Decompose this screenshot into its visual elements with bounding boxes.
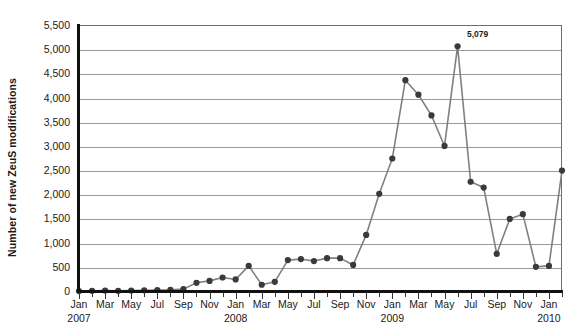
data-point [494,251,500,257]
data-point [233,276,239,282]
y-tick-label: 2,000 [44,188,70,200]
y-tick-label: 500 [52,261,70,273]
data-point [402,77,408,83]
y-tick-label: 1,000 [44,237,70,249]
x-tick-label-year: 2010 [537,312,560,324]
x-tick-label-month: Jan [227,298,244,310]
data-point [468,179,474,185]
x-tick [562,292,563,297]
x-tick-label-month: Mar [409,298,427,310]
data-point [363,232,369,238]
data-point [272,279,278,285]
x-tick-label-month: May [121,298,141,310]
x-tick [353,292,354,297]
x-tick-label-month: Mar [96,298,114,310]
y-tick-label: 4,000 [44,92,70,104]
y-axis-title: Number of new ZeuS modifications [0,0,24,335]
data-point [259,282,265,288]
peak-value-annotation: 5,079 [467,29,488,39]
data-point [311,258,317,264]
data-point [454,43,460,49]
y-tick-label: 2,500 [44,164,70,176]
x-tick-label-month: Nov [357,298,376,310]
data-point [481,184,487,190]
y-tick-label: 4,500 [44,67,70,79]
y-axis-tick-labels: 05001,0001,5002,0002,5003,0003,5004,0004… [24,0,74,335]
data-point [415,92,421,98]
series-line [79,46,562,291]
x-tick-label-month: Jan [540,298,557,310]
x-axis-tick-labels: Jan2007MarMayJulSepNovJan2008MarMayJulSe… [0,298,580,335]
data-point [389,155,395,161]
x-tick [327,292,328,297]
data-point [337,255,343,261]
x-tick [405,292,406,297]
x-tick [379,292,380,297]
data-point [193,280,199,286]
x-tick-label-month: May [435,298,455,310]
data-series [79,26,562,292]
data-point [350,262,356,268]
data-point [441,143,447,149]
zeus-modifications-line-chart: Number of new ZeuS modifications 05001,0… [0,0,580,335]
y-tick-label: 0 [64,285,70,297]
x-tick-label-year: 2009 [381,312,404,324]
x-tick [458,292,459,297]
x-tick-label-month: Jan [384,298,401,310]
x-tick [510,292,511,297]
x-tick [223,292,224,297]
data-point [206,278,212,284]
data-point [507,216,513,222]
y-axis-line [77,24,80,292]
y-tick-label: 5,000 [44,43,70,55]
data-point [219,274,225,280]
x-tick [275,292,276,297]
x-tick-label-month: Sep [174,298,193,310]
data-point [298,256,304,262]
data-point [546,263,552,269]
x-tick-label-month: Nov [513,298,532,310]
data-point [324,255,330,261]
x-tick-label-month: Sep [487,298,506,310]
x-tick [118,292,119,297]
x-tick [170,292,171,297]
x-tick [144,292,145,297]
x-tick-label-month: Jan [71,298,88,310]
plot-area [79,25,562,291]
x-tick-label-month: Mar [253,298,271,310]
x-tick-label-month: Jul [464,298,477,310]
y-tick-label: 3,000 [44,140,70,152]
x-tick [196,292,197,297]
data-point [376,191,382,197]
x-tick-label-year: 2007 [67,312,90,324]
x-tick [92,292,93,297]
data-point [285,257,291,263]
x-tick-label-month: Sep [331,298,350,310]
x-tick-label-month: Jul [307,298,320,310]
x-tick [431,292,432,297]
x-tick [536,292,537,297]
x-tick-label-year: 2008 [224,312,247,324]
y-tick-label: 3,500 [44,116,70,128]
x-tick [484,292,485,297]
data-point [428,112,434,118]
data-point [533,264,539,270]
x-tick [249,292,250,297]
x-tick-label-month: Jul [151,298,164,310]
x-tick-label-month: Nov [200,298,219,310]
x-tick [301,292,302,297]
y-tick-label: 5,500 [44,19,70,31]
x-tick-label-month: May [278,298,298,310]
data-point [559,168,565,174]
data-point [520,211,526,217]
y-tick-label: 1,500 [44,212,70,224]
data-point [246,263,252,269]
